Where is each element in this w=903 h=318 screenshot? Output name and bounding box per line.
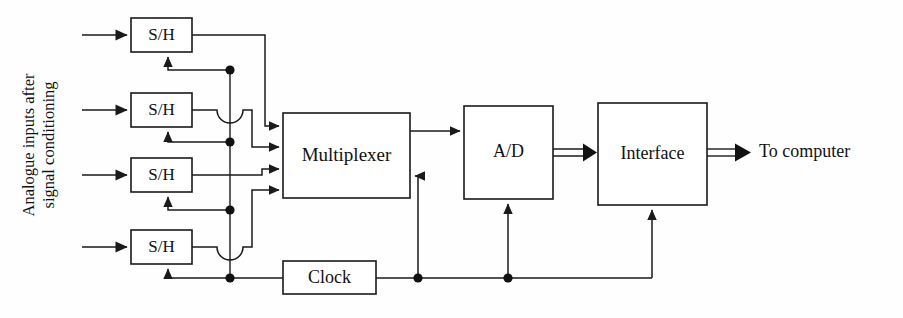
block-diagram-svg: S/H S/H S/H S/H Multiplexer A/D <box>0 0 903 318</box>
adc-label: A/D <box>493 141 524 161</box>
wire-clock-sh3 <box>168 197 230 210</box>
junction-dot-1 <box>225 65 234 74</box>
wire-clock-sh4 <box>168 269 230 278</box>
sample-hold-block-1[interactable]: S/H <box>131 18 192 52</box>
junction-dot-5 <box>413 273 422 282</box>
sample-hold-label-4: S/H <box>148 237 174 256</box>
sample-hold-block-3[interactable]: S/H <box>131 158 192 192</box>
multiplexer-block[interactable]: Multiplexer <box>283 113 410 198</box>
clock-block[interactable]: Clock <box>283 261 376 294</box>
wire-clock-mux <box>415 176 418 278</box>
side-label-line-2: signal conditioning <box>39 82 58 209</box>
bus-arrowhead-iface-out <box>735 144 751 162</box>
wire-sh4-mux <box>192 190 279 260</box>
analogue-inputs-side-label: Analogue inputs after signal conditionin… <box>19 73 58 216</box>
junction-dot-3 <box>225 205 234 214</box>
bus-path-adc-to-interface <box>553 144 597 162</box>
clock-branch-multiplexer <box>415 176 418 278</box>
junction-dot-4 <box>225 273 234 282</box>
clock-label: Clock <box>308 267 351 287</box>
junction-dot-6 <box>503 273 512 282</box>
analogue-input-arrows <box>82 35 127 247</box>
adc-block[interactable]: A/D <box>464 106 553 199</box>
interface-label: Interface <box>621 143 685 163</box>
junction-dot-2 <box>225 137 234 146</box>
clock-branch-sh4 <box>168 269 230 278</box>
wire-clock-sh1 <box>168 57 230 70</box>
clock-branch-sh3 <box>168 197 230 210</box>
wire-clock-sh2 <box>168 132 230 142</box>
to-computer-label: To computer <box>759 141 850 161</box>
sample-hold-block-4[interactable]: S/H <box>131 230 192 264</box>
wire-sh1-mux <box>192 35 279 126</box>
multiplexer-label: Multiplexer <box>302 144 392 165</box>
signal-path-sh1-to-mux <box>192 35 279 126</box>
clock-branch-sh1 <box>168 57 230 70</box>
sample-hold-label-3: S/H <box>148 165 174 184</box>
signal-path-sh3-to-mux <box>192 169 279 175</box>
sample-hold-label-1: S/H <box>148 25 174 44</box>
wire-sh3-mux <box>192 169 279 175</box>
side-label-line-1: Analogue inputs after <box>19 73 38 216</box>
block-diagram-canvas: S/H S/H S/H S/H Multiplexer A/D <box>0 0 903 318</box>
interface-block[interactable]: Interface <box>598 103 707 205</box>
bus-arrowhead-adc-iface <box>583 144 597 162</box>
bus-path-interface-to-computer: To computer <box>707 141 850 161</box>
signal-path-sh4-to-mux <box>192 190 279 260</box>
sample-hold-block-2[interactable]: S/H <box>131 93 192 127</box>
sample-hold-label-2: S/H <box>148 100 174 119</box>
clock-branch-sh2 <box>168 132 230 142</box>
